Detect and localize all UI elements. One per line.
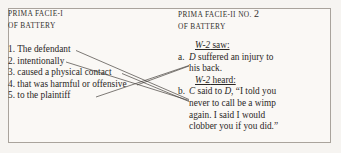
list-item-2: 2. intentionally xyxy=(8,56,158,68)
list-item-4: 4. that was harmful or offensive xyxy=(8,79,158,91)
list-item-1: 1. The defendant xyxy=(8,44,158,56)
right-header-line-2: OF BATTERY xyxy=(178,21,318,33)
list-item-5: 5. to the plaintiff xyxy=(8,90,158,102)
evidence-entry-b-line-4: clobber you if you did.” xyxy=(189,121,330,133)
right-header-number: 2 xyxy=(254,8,259,19)
party-d-italic: D xyxy=(189,52,196,62)
evidence-entry-b-line-3: again. I said I would xyxy=(189,110,330,122)
evidence-entry-a-line-2: his back. xyxy=(189,63,330,75)
witness-heard-label-verb: heard: xyxy=(210,75,236,85)
evidence-list: W-2 saw: a.D suffered an injury to his b… xyxy=(178,40,330,133)
prima-facie-element-list: 1. The defendant 2. intentionally 3. cau… xyxy=(8,44,158,102)
witness-saw-label: W-2 saw: xyxy=(195,40,330,52)
evidence-entry-a-marker: a. xyxy=(178,52,189,64)
evidence-entry-b-line-1: , “I told you xyxy=(231,86,276,96)
witness-saw-label-witness: W-2 xyxy=(195,40,210,50)
evidence-entry-b-marker: b. xyxy=(178,86,189,98)
evidence-entry-b-mid: said to xyxy=(195,86,224,96)
witness-saw-label-verb: saw: xyxy=(210,40,229,50)
right-header-prefix: PRIMA FACIE-II NO. xyxy=(178,10,252,19)
right-header-line-1: PRIMA FACIE-II NO. 2 xyxy=(178,8,318,21)
evidence-entry-a-line-1: suffered an injury to xyxy=(196,52,274,62)
witness-heard-label-witness: W-2 xyxy=(195,75,210,85)
left-column: PRIMA FACIE-I OF BATTERY xyxy=(8,8,148,31)
right-column: PRIMA FACIE-II NO. 2 OF BATTERY xyxy=(178,8,318,32)
evidence-entry-b-line-2: never to call be a wimp xyxy=(189,98,330,110)
evidence-entry-b: b.C said to D, “I told you never to call… xyxy=(178,86,330,132)
witness-heard-label: W-2 heard: xyxy=(195,75,330,87)
left-header-line-1: PRIMA FACIE-I xyxy=(8,8,148,20)
figure-panel: PRIMA FACIE-I OF BATTERY 1. The defendan… xyxy=(0,0,341,153)
left-header-line-2: OF BATTERY xyxy=(8,20,148,32)
evidence-entry-a: a.D suffered an injury to his back. xyxy=(178,52,330,75)
list-item-3: 3. caused a physical contact xyxy=(8,67,158,79)
